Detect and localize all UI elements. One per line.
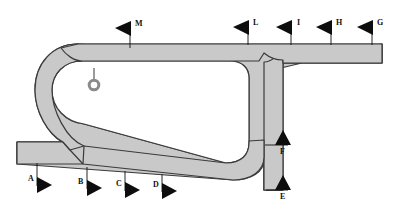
marker-H-arrowhead[interactable]: [316, 20, 332, 35]
marker-B-arrowhead[interactable]: [87, 180, 102, 196]
band-right-branch: [264, 46, 283, 190]
marker-label-C: C: [116, 180, 122, 188]
marker-I-arrowhead[interactable]: [276, 20, 292, 35]
marker-label-I: I: [297, 19, 300, 27]
marker-label-F: F: [280, 148, 285, 156]
figure-canvas: A B C D E F G H I L M: [0, 0, 402, 217]
marker-G-arrowhead[interactable]: [357, 20, 373, 35]
marker-M-arrowhead[interactable]: [115, 21, 131, 36]
marker-G[interactable]: [357, 20, 373, 45]
marker-C[interactable]: [125, 171, 140, 198]
marker-B[interactable]: [87, 167, 102, 196]
marker-label-G: G: [377, 19, 383, 27]
band-shape-group: [17, 44, 382, 190]
band-top-arm: [61, 44, 382, 63]
marker-label-E: E: [280, 193, 286, 201]
loop-diagram-svg: [0, 0, 402, 217]
marker-I[interactable]: [276, 20, 292, 45]
marker-label-A: A: [28, 175, 34, 183]
marker-label-M: M: [135, 20, 143, 28]
marker-L[interactable]: [233, 20, 249, 45]
marker-label-L: L: [253, 19, 259, 27]
marker-A-arrowhead[interactable]: [37, 177, 52, 193]
marker-L-arrowhead[interactable]: [233, 20, 249, 35]
marker-H[interactable]: [316, 20, 332, 45]
marker-D-arrowhead[interactable]: [162, 183, 177, 199]
marker-C-arrowhead[interactable]: [125, 182, 140, 198]
marker-label-B: B: [78, 178, 84, 186]
marker-D[interactable]: [162, 174, 177, 199]
marker-label-H: H: [336, 19, 342, 27]
marker-A[interactable]: [37, 163, 52, 193]
marker-label-D: D: [153, 181, 159, 189]
